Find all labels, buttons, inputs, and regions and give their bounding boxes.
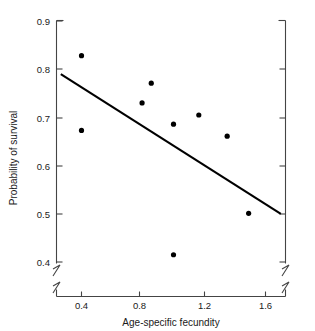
x-axis-title: Age-specific fecundity bbox=[122, 317, 219, 328]
y-tick-label-0.5: 0.5 bbox=[37, 209, 50, 220]
x-tick-label-1.2: 1.2 bbox=[198, 300, 211, 311]
data-point bbox=[171, 252, 176, 257]
data-point bbox=[139, 100, 144, 105]
data-point bbox=[225, 134, 230, 139]
y-tick-label-0.8: 0.8 bbox=[37, 64, 50, 75]
data-point bbox=[79, 128, 84, 133]
data-point bbox=[196, 112, 201, 117]
data-point bbox=[79, 53, 84, 58]
scatter-chart: 0.9 0.8 0.7 0.6 0.5 0.4 0.4 0.8 1.2 1.6 … bbox=[0, 0, 315, 331]
y-tick-label-0.7: 0.7 bbox=[37, 113, 50, 124]
y-tick-label-0.4: 0.4 bbox=[37, 257, 50, 268]
y-tick-label-0.6: 0.6 bbox=[37, 161, 50, 172]
x-tick-label-0.4: 0.4 bbox=[75, 300, 88, 311]
y-tick-label-0.9: 0.9 bbox=[37, 16, 50, 27]
y-axis-title: Probability of survival bbox=[8, 111, 19, 205]
data-point bbox=[246, 211, 251, 216]
x-tick-label-0.8: 0.8 bbox=[133, 300, 146, 311]
data-point bbox=[149, 81, 154, 86]
data-point bbox=[171, 122, 176, 127]
x-tick-label-1.6: 1.6 bbox=[259, 300, 272, 311]
figure-container: 0.9 0.8 0.7 0.6 0.5 0.4 0.4 0.8 1.2 1.6 … bbox=[0, 0, 315, 331]
